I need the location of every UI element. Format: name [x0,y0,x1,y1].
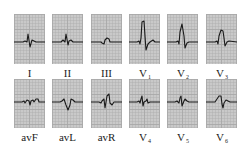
ecg-trace-lead-avF [14,79,45,128]
ecg-trace-lead-avL [52,79,83,128]
ecg-trace-lead-V2 [167,14,198,64]
ecg-panel-lead-V1 [129,14,160,64]
ecg-trace-lead-avR [91,79,122,128]
lead-label-avF: avF [11,131,49,145]
lead-label-avL: avL [49,131,87,145]
ecg-trace-lead-I [14,14,45,64]
ecg-panel-lead-V3 [206,14,237,64]
ecg-trace-lead-V3 [206,14,237,64]
lead-label-V6: V6 [203,131,241,145]
ecg-panel-lead-avL [52,79,83,128]
lead-label-V5: V5 [164,131,202,145]
ecg-panel-lead-III [91,14,122,64]
lead-label-avR: avR [88,131,126,145]
ecg-panel-lead-II [52,14,83,64]
ecg-panel-lead-avR [91,79,122,128]
ecg-panel-lead-avF [14,79,45,128]
lead-label-V4: V4 [126,131,164,145]
ecg-panel-lead-V4 [129,79,160,128]
ecg-panel-lead-I [14,14,45,64]
ecg-panel-lead-V2 [167,14,198,64]
ecg-panel-lead-V5 [167,79,198,128]
ecg-trace-lead-V6 [206,79,237,128]
ecg-panel-lead-V6 [206,79,237,128]
ecg-trace-lead-III [91,14,122,64]
ecg-trace-lead-V5 [167,79,198,128]
ecg-trace-lead-V4 [129,79,160,128]
ecg-trace-lead-II [52,14,83,64]
ecg-trace-lead-V1 [129,14,160,64]
